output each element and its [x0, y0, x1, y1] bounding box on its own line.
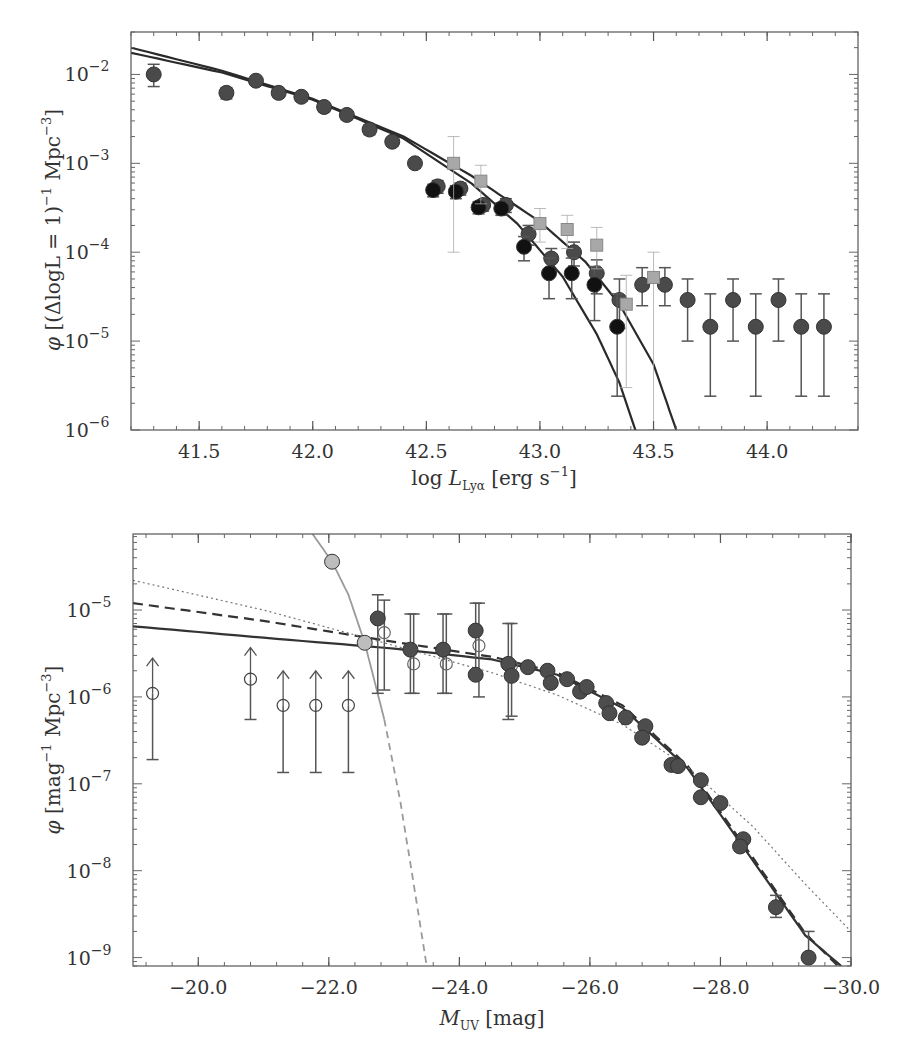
data-point	[325, 554, 340, 569]
data-point	[219, 85, 234, 100]
data-point	[294, 89, 309, 104]
x-tick-label: −26.0	[561, 976, 619, 998]
data-point	[733, 839, 748, 854]
bottom-plot-frame	[133, 534, 851, 966]
data-point	[816, 319, 831, 334]
data-point	[602, 706, 617, 721]
y-tick-label: 10−7	[67, 768, 112, 795]
top-x-tick-labels: 41.542.042.543.043.544.0	[178, 440, 788, 462]
data-point	[748, 319, 763, 334]
data-point	[357, 635, 372, 650]
bottom-y-axis-label: φ [mag−1 Mpc−3]	[39, 666, 65, 835]
fit-curve	[133, 603, 838, 966]
data-point	[370, 611, 385, 626]
data-point	[448, 184, 463, 199]
top-plot-frame	[131, 32, 858, 430]
data-point	[517, 239, 532, 254]
bottom-y-tick-labels: 10−510−610−710−810−9	[67, 594, 112, 969]
data-point-square	[591, 239, 603, 251]
data-point	[407, 156, 422, 171]
data-point-square	[620, 298, 632, 310]
data-point	[317, 99, 332, 114]
fit-curve	[133, 626, 841, 966]
data-point	[248, 73, 263, 88]
x-tick-label: 43.5	[632, 440, 674, 462]
data-point	[426, 183, 441, 198]
data-point	[339, 107, 354, 122]
data-point	[504, 668, 519, 683]
data-point	[543, 675, 558, 690]
y-tick-label: 10−6	[65, 414, 110, 441]
y-tick-label: 10−2	[65, 58, 110, 85]
data-point	[436, 642, 451, 657]
x-tick-label: 43.0	[519, 440, 561, 462]
y-tick-label: 10−6	[67, 681, 112, 708]
data-point	[635, 730, 650, 745]
top-axis-ticks	[131, 32, 858, 430]
lya-luminosity-function-chart: 41.542.042.543.043.544.0 10−210−310−410−…	[39, 32, 858, 493]
data-point	[560, 672, 575, 687]
data-point	[610, 319, 625, 334]
top-x-axis-label: log LLyα [erg s−1]	[411, 464, 577, 493]
data-point-square	[648, 271, 660, 283]
data-point	[468, 667, 483, 682]
bottom-data-points	[147, 554, 816, 965]
figure: 41.542.042.543.043.544.0 10−210−310−410−…	[0, 0, 918, 1052]
data-point	[771, 292, 786, 307]
data-point	[801, 950, 816, 965]
y-tick-label: 10−4	[65, 236, 110, 263]
data-point	[468, 623, 483, 638]
data-point	[494, 201, 509, 216]
data-point	[385, 134, 400, 149]
x-tick-label: 42.0	[292, 440, 334, 462]
bottom-x-tick-labels: −20.0−22.0−24.0−26.0−28.0−30.0	[169, 976, 880, 998]
bottom-axis-ticks	[133, 534, 851, 966]
y-tick-label: 10−5	[67, 594, 112, 621]
data-point	[693, 773, 708, 788]
fit-curve	[133, 580, 851, 931]
data-point	[693, 790, 708, 805]
top-data-points	[146, 64, 831, 430]
data-point	[671, 759, 686, 774]
data-point	[579, 680, 594, 695]
data-point	[794, 319, 809, 334]
x-tick-label: −24.0	[430, 976, 488, 998]
data-point	[542, 266, 557, 281]
x-tick-label: −30.0	[822, 976, 880, 998]
top-y-axis-label: φ [(ΔlogL = 1)−1 Mpc−3]	[39, 109, 65, 351]
data-point-square	[534, 218, 546, 230]
x-tick-label: −20.0	[169, 976, 227, 998]
x-tick-label: −22.0	[300, 976, 358, 998]
x-tick-label: 44.0	[746, 440, 788, 462]
data-point	[713, 796, 728, 811]
data-point	[471, 200, 486, 215]
data-point-square	[561, 224, 573, 236]
fit-curve	[131, 53, 635, 430]
data-point	[362, 122, 377, 137]
y-tick-label: 10−9	[67, 942, 112, 969]
data-point	[520, 660, 535, 675]
y-tick-label: 10−5	[65, 325, 110, 352]
data-point	[726, 292, 741, 307]
y-tick-label: 10−8	[67, 855, 112, 882]
data-point	[403, 642, 418, 657]
data-point	[618, 710, 633, 725]
x-tick-label: 41.5	[178, 440, 220, 462]
y-tick-label: 10−3	[65, 147, 110, 174]
bottom-fit-curves	[133, 534, 851, 966]
x-tick-label: −28.0	[691, 976, 749, 998]
data-point-square	[448, 157, 460, 169]
data-point-square	[475, 175, 487, 187]
x-tick-label: 42.5	[405, 440, 447, 462]
bottom-x-axis-label: MUV [mag]	[439, 1006, 545, 1033]
data-point	[146, 67, 161, 82]
data-point	[564, 266, 579, 281]
data-point	[768, 900, 783, 915]
data-point	[271, 85, 286, 100]
faint-component-curve-dashed	[384, 720, 426, 967]
data-point	[587, 277, 602, 292]
data-point	[680, 292, 695, 307]
top-y-tick-labels: 10−210−310−410−510−6	[65, 58, 110, 441]
data-point	[703, 319, 718, 334]
uv-luminosity-function-chart: −20.0−22.0−24.0−26.0−28.0−30.0 10−510−61…	[39, 534, 880, 1033]
